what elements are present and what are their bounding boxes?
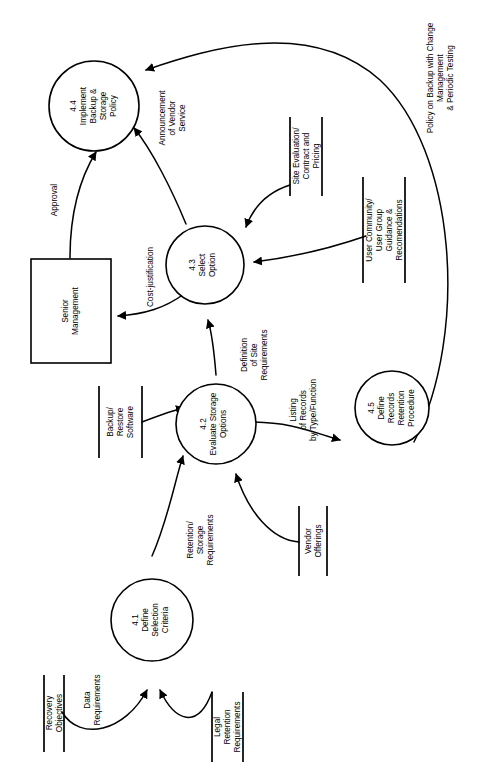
backup-restore-line-2: Software (126, 405, 135, 438)
policy-backup-line-2: & Periodic Testing (446, 45, 455, 111)
process-4-5-line-0: 4.5 (367, 402, 376, 414)
process-4-4-line-3: Storage (99, 91, 108, 120)
retention-storage-line-2: Requirements (206, 515, 215, 566)
backup-restore-line-1: Restore (116, 407, 125, 436)
flow-line-user-community (254, 236, 366, 262)
vendor-offerings-line-0: Vendor (304, 528, 313, 554)
process-4-5-line-1: Define (377, 396, 386, 420)
data-store-vendor-offerings[interactable]: Vendor Offerings (299, 506, 327, 576)
process-4-5-line-2: Records (387, 393, 396, 424)
flow-line-legal-retention (160, 690, 212, 717)
listing-records-line-2: by Type/Function (309, 378, 318, 441)
policy-backup-line-0: Policy on Backup with Change (426, 22, 435, 133)
process-4-3-line-1: Select (198, 253, 207, 276)
process-4-1-line-2: Selection (151, 603, 160, 637)
process-4-3-line-2: Option (208, 252, 217, 277)
announcement-line-2: Service (178, 104, 187, 132)
flow-line-definition-site-req (208, 320, 216, 375)
process-4-4-line-4: Policy (109, 94, 118, 117)
listing-records-line-0: Listing (289, 398, 298, 422)
data-flow-diagram: 4.4 Implement Backup & Storage Policy 4.… (0, 0, 483, 770)
flow-label-announcement-vendor: Announcement of Vendor Service (158, 90, 187, 146)
approval-line-0: Approval (50, 184, 59, 216)
process-4-1-line-0: 4.1 (131, 614, 140, 626)
policy-backup-line-1: Management (436, 53, 445, 102)
flow-line-site-evaluation (246, 185, 290, 227)
flow-line-data-requirements (62, 690, 147, 729)
process-4-4-line-2: Backup & (89, 88, 98, 124)
definition-site-line-2: Requirements (260, 330, 269, 381)
user-community-line-0: User Community/ (365, 198, 374, 262)
process-4-4-line-1: Implement (79, 86, 88, 125)
process-4-1-line-1: Define (141, 608, 150, 632)
flow-label-listing-of-records: Listing of Records by Type/Function (289, 378, 318, 441)
data-store-recovery-objectives[interactable]: Recovery Objectives (44, 675, 64, 752)
listing-records-line-1: of Records (299, 390, 308, 430)
site-evaluation-line-1: Contract and (302, 132, 311, 179)
process-4-4-line-0: 4.4 (69, 100, 78, 112)
process-4-2-line-2: Options (219, 410, 228, 438)
retention-storage-line-0: Retention/ (186, 521, 195, 559)
flow-line-listing-of-records (249, 422, 340, 440)
legal-retention-line-0: Legal (213, 717, 222, 737)
announcement-line-1: of Vendor (168, 100, 177, 135)
cost-justification-line-0: Cost-justification (146, 247, 155, 308)
site-evaluation-line-2: Pricing (312, 143, 321, 168)
process-4-5-line-4: Procedure (407, 389, 416, 427)
recovery-objectives-line-1: Objectives (55, 694, 64, 732)
flow-label-data-requirements: Data Requirements (83, 675, 102, 726)
data-requirements-line-1: Requirements (93, 675, 102, 726)
process-4-1-line-3: Criteria (161, 606, 170, 633)
legal-retention-line-2: Requirements (233, 702, 242, 753)
retention-storage-line-1: Storage (196, 525, 205, 554)
recovery-objectives-line-0: Recovery (45, 695, 54, 730)
senior-management-line-1: Management (71, 286, 80, 335)
announcement-line-0: Announcement (158, 90, 167, 146)
data-store-user-community-guidance[interactable]: User Community/ User Group Guidance & Re… (363, 177, 405, 283)
flow-label-retention-storage: Retention/ Storage Requirements (186, 515, 215, 566)
flow-label-approval: Approval (50, 184, 59, 216)
flow-label-policy-on-backup: Policy on Backup with Change Management … (426, 22, 455, 133)
vendor-offerings-line-1: Offerings (314, 524, 323, 557)
flow-label-cost-justification: Cost-justification (146, 247, 155, 308)
flow-line-approval (70, 152, 96, 258)
legal-retention-line-1: Retention (223, 709, 232, 744)
dfd-canvas: 4.4 Implement Backup & Storage Policy 4.… (0, 0, 483, 770)
process-4-3-line-0: 4.3 (188, 259, 197, 271)
definition-site-line-0: Definition (240, 337, 249, 372)
process-4-5-line-3: Retention (397, 390, 406, 425)
site-evaluation-line-0: Site Evaluation/ (292, 127, 301, 185)
data-requirements-line-0: Data (83, 691, 92, 709)
flow-line-retention-storage (152, 456, 183, 556)
user-community-line-3: Recomendations (395, 199, 404, 260)
data-store-legal-retention-requirements[interactable]: Legal Retention Requirements (212, 692, 243, 762)
user-community-line-1: User Group (375, 208, 384, 251)
flow-line-vendor-offerings (236, 474, 299, 542)
process-4-2-line-1: Evaluate Storage (209, 392, 218, 455)
data-store-site-evaluation-contract-pricing[interactable]: Site Evaluation/ Contract and Pricing (290, 117, 322, 196)
backup-restore-line-0: Backup/ (106, 406, 115, 436)
flow-label-definition-site-req: Definition of Site Requirements (240, 330, 269, 381)
senior-management-line-0: Senior (61, 299, 70, 323)
data-store-backup-restore-software[interactable]: Backup/ Restore Software (99, 386, 142, 458)
process-4-2-line-0: 4.2 (199, 418, 208, 430)
user-community-line-2: Guidance & (385, 208, 394, 251)
definition-site-line-1: of Site (250, 343, 259, 367)
